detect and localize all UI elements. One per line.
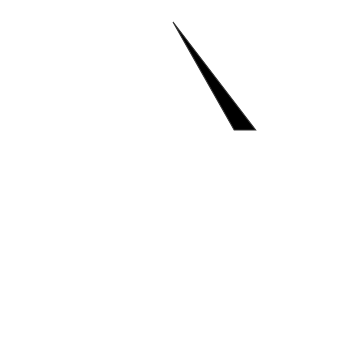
- region-clay: [173, 22, 256, 130]
- soil-texture-triangle: [0, 0, 360, 338]
